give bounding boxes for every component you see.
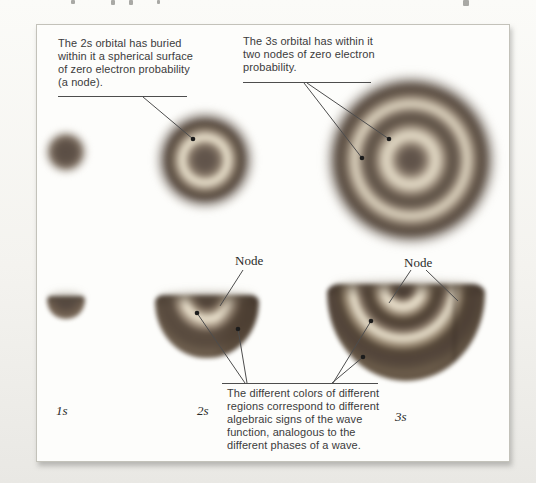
cropped-text-artifact — [111, 0, 115, 5]
color-note-text: The different colors of different region… — [227, 387, 379, 452]
cropped-text-artifact — [129, 0, 133, 5]
cropped-text-artifact — [463, 0, 469, 6]
cropped-text-artifact — [71, 0, 75, 4]
cropped-text-artifact — [157, 0, 160, 4]
orbital-label-1s: 1s — [56, 403, 68, 419]
orbital-1s-sphere — [39, 126, 93, 178]
scanned-page: The 2s orbital has buried within it a sp… — [0, 0, 536, 483]
orbital-label-2s: 2s — [197, 403, 209, 419]
orbital-2s-sphere — [151, 106, 259, 214]
orbital-label-3s: 3s — [395, 409, 407, 425]
orbital-3s-sphere — [321, 70, 501, 250]
node-label-3s: Node — [404, 255, 432, 271]
node-label-2s: Node — [235, 253, 263, 269]
callout-3s-text: The 3s orbital has within it two nodes o… — [243, 35, 375, 74]
callout-2s-text: The 2s orbital has buried within it a sp… — [58, 37, 193, 89]
